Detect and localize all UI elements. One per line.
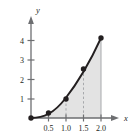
data-point-20: [98, 35, 103, 40]
data-point-15: [81, 66, 86, 71]
data-point-0: [28, 115, 33, 120]
y-tick-label-1: 1: [20, 95, 24, 104]
x-axis-arrowhead: [111, 115, 119, 121]
y-axis-arrowhead: [28, 16, 34, 24]
figure-container: 1 2 3 4 0.5 1.0 1.5 2.0 y x: [0, 0, 132, 139]
x-tick-label-15: 1.5: [79, 124, 89, 133]
x-tick-label-05: 0.5: [44, 124, 54, 133]
y-tick-label-2: 2: [20, 76, 24, 85]
curve-area-chart: 1 2 3 4 0.5 1.0 1.5 2.0 y x: [0, 0, 132, 139]
x-tick-label-10: 1.0: [61, 124, 71, 133]
x-axis-label: x: [123, 113, 128, 123]
y-axis-label: y: [35, 5, 40, 15]
x-tick-label-20: 2.0: [96, 124, 106, 133]
data-point-05: [46, 110, 51, 115]
y-tick-label-4: 4: [20, 37, 24, 46]
data-point-10: [63, 96, 68, 101]
y-tick-label-3: 3: [20, 56, 24, 65]
